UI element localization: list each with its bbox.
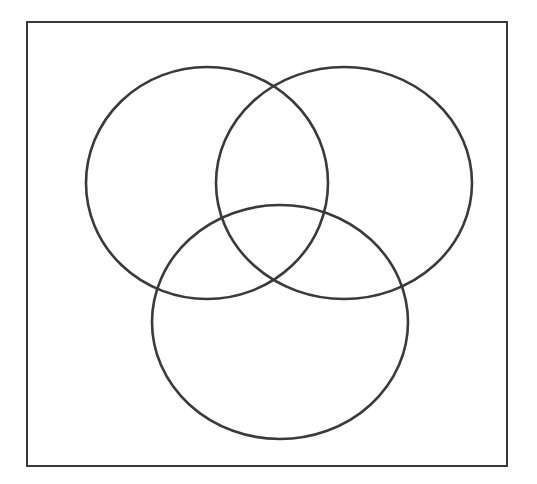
set-bottom-circle <box>152 205 408 439</box>
universe-frame <box>27 22 507 466</box>
set-left-circle <box>86 67 328 299</box>
set-right-circle <box>216 67 472 299</box>
venn-diagram <box>0 0 537 484</box>
